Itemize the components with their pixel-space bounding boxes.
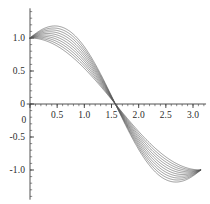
x-axis-tick-label: 2.5 [160,110,172,120]
axes-layer [27,8,206,199]
origin-tick-label: 0 [2,99,25,109]
x-axis-tick-label: 1.5 [105,110,117,120]
y-axis-tick-label: 0.5 [2,66,25,76]
plot-figure: 00.51.01.52.02.53.0-1.0-0.50.51.00 [0,0,210,204]
x-axis-tick-label: 3.0 [187,110,199,120]
x-axis-tick-label: 1.0 [78,110,90,120]
x-axis-tick-label: 2.0 [133,110,145,120]
y-axis-tick-label: -0.5 [2,132,25,142]
y-axis-tick-label: 1.0 [2,33,25,43]
x-axis-tick-label: 0.5 [51,110,63,120]
x-axis-tick-label: 0 [22,115,27,125]
y-axis-tick-label: -1.0 [2,165,25,175]
plot-canvas [0,0,210,204]
